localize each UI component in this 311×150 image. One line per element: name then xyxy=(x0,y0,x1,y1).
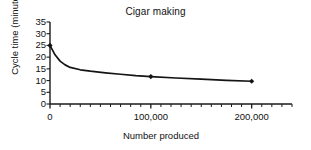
y-tick-label: 15 xyxy=(22,64,46,73)
x-tick-label: 200,000 xyxy=(222,112,282,121)
y-tick-label: 30 xyxy=(22,29,46,38)
data-point-marker xyxy=(249,79,254,84)
data-point-marker xyxy=(148,74,153,79)
y-tick-label: 5 xyxy=(22,87,46,96)
y-tick-label: 0 xyxy=(22,99,46,108)
y-tick-label: 20 xyxy=(22,52,46,61)
x-tick-label: 100,000 xyxy=(121,112,181,121)
chart-figure: Cigar making Cycle time (minutes) Number… xyxy=(0,0,311,150)
data-point-markers xyxy=(47,43,254,84)
x-tick-label: 0 xyxy=(20,112,80,121)
axes xyxy=(50,22,292,104)
y-tick-label: 35 xyxy=(22,17,46,26)
plot-area xyxy=(0,0,311,150)
y-tick-label: 25 xyxy=(22,40,46,49)
y-tick-label: 10 xyxy=(22,76,46,85)
